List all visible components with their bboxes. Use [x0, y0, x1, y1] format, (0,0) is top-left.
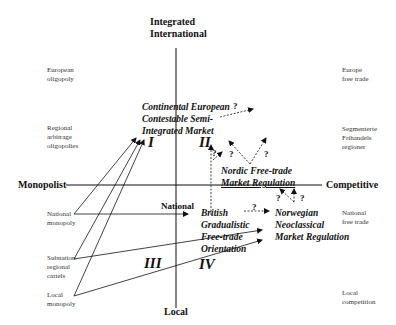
regime-nordic: Nordic Free-trade Market Regulation — [221, 165, 295, 189]
label-line: competition — [342, 298, 375, 307]
left-label-national-monopoly: National monopoly — [47, 210, 75, 228]
label-line: Regional — [47, 124, 78, 133]
regime-line: Norwegian — [275, 207, 349, 219]
question-mark: ? — [300, 193, 305, 203]
regime-norwegian: Norwegian Neoclassical Market Regulation — [275, 207, 349, 243]
label-line: European — [47, 66, 74, 75]
label-line: oligopoly — [47, 75, 74, 84]
regime-line: Market Regulation — [275, 231, 349, 243]
regime-line: Neoclassical — [275, 219, 349, 231]
question-mark: ? — [252, 202, 257, 212]
label-line: arbitrage — [47, 133, 78, 142]
question-mark: ? — [233, 101, 238, 111]
label-line: Local — [47, 291, 75, 300]
regime-line: Market Regulation — [221, 177, 295, 189]
axis-top-line-2: International — [150, 28, 207, 40]
left-label-european-oligopoly: European oligopoly — [47, 66, 74, 84]
label-line: Local — [342, 289, 375, 298]
quadrant-label-iii: III — [144, 255, 162, 272]
question-mark: ? — [264, 149, 269, 159]
regime-line: Free-trade — [201, 231, 250, 243]
left-label-local-monopoly: Local monopoly — [47, 291, 75, 309]
right-label-local-competition: Local competition — [342, 289, 375, 307]
label-line: monopoly — [47, 300, 75, 309]
label-line: Frihandels — [342, 134, 377, 143]
regime-line: British — [201, 207, 250, 219]
right-label-europe-free-trade: Europe free trade — [342, 66, 369, 84]
regime-continental-european: Continental European Contestable Semi- I… — [142, 101, 230, 137]
left-label-regional-arbitrage: Regional arbitrage oligopolies — [47, 124, 78, 151]
regime-line: Gradualistic — [201, 219, 250, 231]
axis-left-label: Monopolist — [18, 179, 66, 191]
right-label-segmenterte: Segmenterte Frihandels regioner — [342, 125, 377, 152]
label-line: Europe — [342, 66, 369, 75]
axis-center-label: National — [161, 200, 194, 212]
label-line: regioner — [342, 143, 377, 152]
regime-british: British Gradualistic Free-trade Orientat… — [201, 207, 250, 255]
regime-line: Integrated Market — [142, 125, 230, 137]
label-line: cartels — [47, 272, 75, 281]
axis-top-label: Integrated International — [150, 16, 207, 40]
axis-top-line-1: Integrated — [150, 16, 207, 28]
regime-line: Contestable Semi- — [142, 113, 230, 125]
label-line: Subnation — [47, 254, 75, 263]
regime-line: Orientation — [201, 243, 250, 255]
question-mark: ? — [229, 149, 234, 159]
label-line: monopoly — [47, 219, 75, 228]
axis-right-label: Competitive — [326, 179, 378, 191]
left-label-subnation-cartels: Subnation regional cartels — [47, 254, 75, 281]
question-mark: ? — [276, 193, 281, 203]
label-line: oligopolies — [47, 142, 78, 151]
label-line: regional — [47, 263, 75, 272]
regime-line: Nordic Free-trade — [221, 165, 295, 177]
regime-line: Continental European — [142, 101, 230, 113]
label-line: National — [47, 210, 75, 219]
question-mark: ? — [212, 148, 217, 158]
label-line: Segmenterte — [342, 125, 377, 134]
axis-bottom-label: Local — [164, 306, 188, 318]
quadrant-label-iv: IV — [199, 256, 215, 273]
label-line: free trade — [342, 75, 369, 84]
